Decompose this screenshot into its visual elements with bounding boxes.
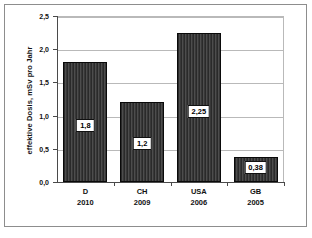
category-name: D <box>55 186 115 197</box>
y-axis-tick-label: 2,5 <box>5 13 49 20</box>
bar-value-label: 1,2 <box>133 137 151 150</box>
category-name: CH <box>112 186 172 197</box>
x-axis-category-label: D2010 <box>55 186 115 208</box>
category-year: 2010 <box>55 197 115 208</box>
category-name: USA <box>169 186 229 197</box>
x-axis-category-label: USA2006 <box>169 186 229 208</box>
bar-value-label: 2,25 <box>188 105 211 118</box>
bar-value-label: 0,38 <box>244 161 267 174</box>
y-axis-tick-label: 0,0 <box>5 179 49 186</box>
bar: 1,8 <box>63 62 107 182</box>
y-axis-tick-label: 1,0 <box>5 112 49 119</box>
bar-value-label: 1,8 <box>76 119 94 132</box>
y-axis-tick-label: 0,5 <box>5 145 49 152</box>
bar: 2,25 <box>177 33 221 182</box>
chart-figure: effektive Dosis, mSv pro Jahr 0,00,51,01… <box>0 0 312 238</box>
gridline <box>57 17 283 18</box>
plot-area: 1,81,22,250,38 <box>57 16 284 182</box>
x-axis-category-label: GB2005 <box>226 186 286 208</box>
category-name: GB <box>226 186 286 197</box>
bar: 1,2 <box>120 102 164 182</box>
y-axis-line <box>57 16 58 183</box>
category-year: 2006 <box>169 197 229 208</box>
category-year: 2009 <box>112 197 172 208</box>
x-axis-category-label: CH2009 <box>112 186 172 208</box>
x-axis-tick-mark <box>284 182 285 186</box>
y-axis-tick-label: 2,0 <box>5 46 49 53</box>
gridline <box>57 50 283 51</box>
category-year: 2005 <box>226 197 286 208</box>
y-axis-tick-label: 1,5 <box>5 79 49 86</box>
bar: 0,38 <box>234 157 278 182</box>
